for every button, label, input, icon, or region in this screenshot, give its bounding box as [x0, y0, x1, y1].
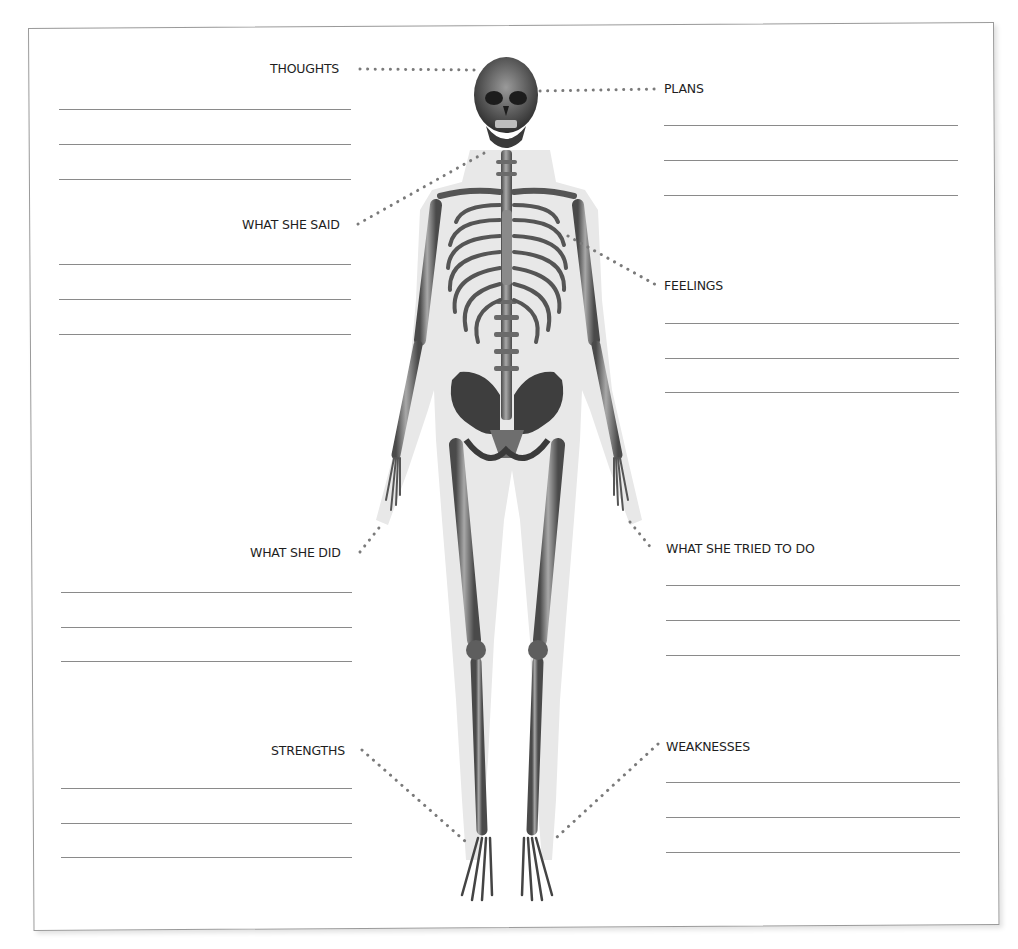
answer-line[interactable]	[59, 299, 351, 300]
answer-line[interactable]	[666, 852, 960, 853]
feet	[462, 838, 552, 900]
label-what-she-said: WHAT SHE SAID	[242, 218, 340, 232]
answer-line[interactable]	[666, 585, 960, 586]
answer-line[interactable]	[61, 823, 352, 824]
answer-line[interactable]	[61, 857, 352, 858]
answer-line[interactable]	[61, 788, 352, 789]
answer-line[interactable]	[666, 817, 960, 818]
answer-line[interactable]	[666, 655, 960, 656]
label-plans: PLANS	[664, 82, 704, 96]
answer-line[interactable]	[59, 264, 351, 265]
answer-line[interactable]	[664, 125, 958, 126]
answer-line[interactable]	[665, 358, 959, 359]
answer-line[interactable]	[664, 160, 958, 161]
answer-line[interactable]	[666, 620, 960, 621]
answer-line[interactable]	[59, 109, 351, 110]
answer-line[interactable]	[664, 195, 958, 196]
leader-thoughts	[360, 69, 480, 70]
answer-line[interactable]	[665, 323, 959, 324]
answer-line[interactable]	[59, 144, 351, 145]
label-thoughts: THOUGHTS	[270, 62, 339, 76]
knees	[466, 640, 548, 660]
answer-line[interactable]	[59, 179, 351, 180]
leader-strengths	[362, 750, 466, 842]
skeleton-figure	[0, 0, 1018, 949]
sternum	[502, 210, 512, 285]
answer-line[interactable]	[666, 782, 960, 783]
leader-what-she-did	[360, 524, 382, 552]
leader-plans	[540, 89, 658, 91]
answer-line[interactable]	[61, 661, 352, 662]
label-feelings: FEELINGS	[664, 279, 723, 293]
answer-line[interactable]	[665, 392, 959, 393]
label-weaknesses: WEAKNESSES	[666, 740, 750, 754]
leader-weaknesses	[556, 744, 658, 838]
label-strengths: STRENGTHS	[271, 744, 345, 758]
label-what-she-tried-to-do: WHAT SHE TRIED TO DO	[666, 542, 815, 556]
answer-line[interactable]	[59, 334, 351, 335]
label-what-she-did: WHAT SHE DID	[250, 546, 341, 560]
answer-line[interactable]	[61, 627, 352, 628]
answer-line[interactable]	[61, 592, 352, 593]
leader-what-she-tried-to-do	[630, 522, 652, 549]
skull	[474, 57, 538, 148]
